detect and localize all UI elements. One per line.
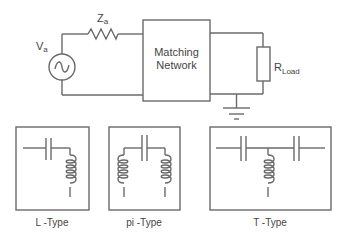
inductor-icon bbox=[66, 155, 76, 183]
resistor-za-icon bbox=[88, 29, 118, 39]
source-label: Va bbox=[36, 40, 48, 54]
impedance-label: Za bbox=[97, 12, 109, 26]
inductor-right-icon bbox=[161, 155, 171, 183]
matching-box-line1: Matching bbox=[154, 46, 199, 58]
pi-type-label: pi -Type bbox=[126, 217, 162, 228]
load-label: RLoad bbox=[274, 61, 300, 76]
l-type-label: L -Type bbox=[36, 217, 69, 228]
t-type-network bbox=[210, 127, 331, 210]
t-type-label: T -Type bbox=[253, 217, 287, 228]
sine-wave-icon bbox=[55, 62, 69, 72]
load-resistor-icon bbox=[257, 47, 270, 81]
matching-network-diagram: Va Za Matching Network RLoad L -Type bbox=[0, 0, 346, 235]
l-type-network bbox=[16, 127, 89, 210]
source-circuit bbox=[49, 29, 143, 95]
pi-type-network bbox=[109, 127, 180, 210]
inductor-left-icon bbox=[118, 155, 128, 183]
ground-icon bbox=[223, 94, 250, 119]
load-circuit bbox=[210, 33, 270, 119]
matching-box-line2: Network bbox=[156, 59, 197, 71]
inductor-icon bbox=[264, 155, 274, 183]
